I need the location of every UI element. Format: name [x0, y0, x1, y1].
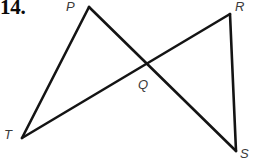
vertex-label-p: P [66, 0, 75, 13]
vertex-label-q: Q [138, 78, 148, 91]
vertex-label-s: S [240, 147, 249, 160]
vertex-label-t: T [4, 128, 12, 141]
vertex-label-r: R [235, 0, 244, 13]
segment-r-s [230, 14, 236, 151]
segment-p-s [89, 7, 236, 151]
geometry-figure: 14. P R Q T S [0, 0, 256, 164]
geometry-diagram [0, 0, 256, 164]
